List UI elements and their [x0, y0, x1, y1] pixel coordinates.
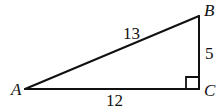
vertex-label-c: C: [204, 81, 216, 100]
side-label-bc: 5: [205, 44, 214, 63]
right-angle-marker: [186, 77, 199, 89]
right-triangle-diagram: A B C 13 5 12: [0, 0, 224, 108]
vertex-label-b: B: [204, 1, 215, 20]
side-label-ac: 12: [106, 91, 123, 108]
vertex-label-a: A: [10, 80, 22, 99]
side-ab: [25, 16, 199, 89]
side-label-ab: 13: [123, 24, 140, 43]
